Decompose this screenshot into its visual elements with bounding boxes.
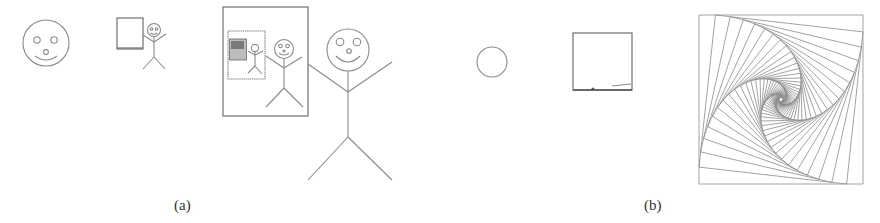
small-picture [117, 18, 166, 69]
figure: (a) (b) [0, 0, 880, 223]
circle [477, 47, 507, 77]
rotated-squares-spiral [699, 15, 863, 184]
square [573, 33, 632, 91]
panel-label-b: (b) [644, 197, 662, 214]
framed-nested-picture [223, 7, 308, 116]
panel-b [477, 15, 863, 184]
panel-a [23, 7, 392, 180]
panel-label-a: (a) [174, 197, 191, 214]
smiley-face [23, 20, 69, 66]
large-stick-figure [308, 29, 392, 180]
